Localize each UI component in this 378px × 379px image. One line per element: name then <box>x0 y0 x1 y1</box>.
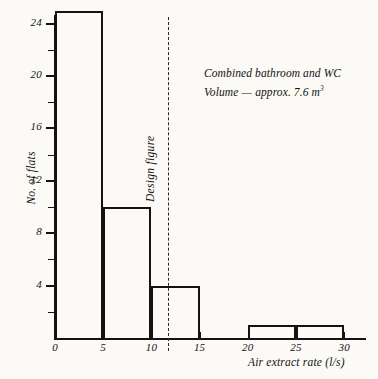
design-figure-line <box>168 17 169 351</box>
x-tick-label: 30 <box>330 341 358 353</box>
y-tick-label: 4 <box>18 278 42 290</box>
x-tick-label: 10 <box>137 341 165 353</box>
x-tick-label: 20 <box>234 341 262 353</box>
x-tick-label: 0 <box>41 341 69 353</box>
histogram-bar <box>248 325 296 338</box>
y-tick-minor <box>48 155 54 156</box>
y-tick-major <box>46 180 54 182</box>
y-axis-title: No. of flats <box>25 133 37 223</box>
x-tick-label: 25 <box>282 341 310 353</box>
y-tick-major <box>46 23 54 25</box>
annotation-unit-exponent: 3 <box>320 84 324 93</box>
y-tick-minor <box>48 207 54 208</box>
design-figure-label: Design figure <box>144 136 156 202</box>
x-axis-line <box>54 338 366 340</box>
y-tick-major <box>46 232 54 234</box>
annotation-volume-pre: Volume <box>204 86 241 98</box>
x-axis-title: Air extract rate (l/s) <box>248 356 345 368</box>
histogram-bar <box>296 325 344 338</box>
x-tick <box>344 332 345 338</box>
y-tick-minor <box>48 259 54 260</box>
x-tick-label: 15 <box>186 341 214 353</box>
y-tick-major <box>46 127 54 129</box>
annotation-volume-post: approx. 7.6 m <box>252 86 320 98</box>
histogram-bar <box>151 286 199 338</box>
y-tick-label: 16 <box>18 120 42 132</box>
annotation-dash: — <box>241 86 252 98</box>
y-tick-minor <box>48 102 54 103</box>
y-tick-major <box>46 285 54 287</box>
y-tick-label: 8 <box>18 225 42 237</box>
histogram-figure: 4812162024 051015202530 Design figure Co… <box>0 0 378 379</box>
plot-area: 4812162024 051015202530 Design figure Co… <box>0 0 378 379</box>
y-tick-major <box>46 75 54 77</box>
histogram-bar <box>55 11 103 339</box>
y-tick-minor <box>48 50 54 51</box>
chart-annotation: Combined bathroom and WC Volume — approx… <box>204 66 341 100</box>
y-tick-minor <box>48 312 54 313</box>
x-tick-label: 5 <box>89 341 117 353</box>
y-tick-label: 24 <box>18 16 42 28</box>
annotation-line-2: Volume — approx. 7.6 m3 <box>204 81 341 100</box>
annotation-line-1: Combined bathroom and WC <box>204 66 341 81</box>
y-tick-label: 20 <box>18 68 42 80</box>
histogram-bar <box>103 207 151 338</box>
x-tick <box>200 332 201 338</box>
